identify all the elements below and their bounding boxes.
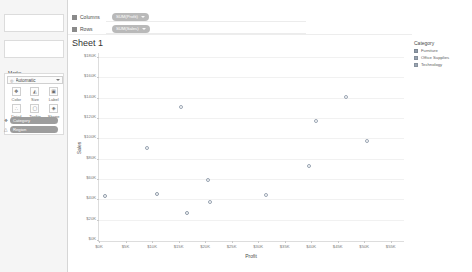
x-tick-mark: [152, 241, 153, 243]
rows-shelf-dropzone[interactable]: SUM(Sales): [106, 24, 306, 34]
x-tick-label: $45K: [333, 244, 343, 249]
mark-type-dropdown[interactable]: ◎ Automatic: [7, 76, 63, 84]
x-tick-label: $20K: [200, 244, 210, 249]
y-tick-mark: [97, 98, 99, 99]
legend-item-label: Furniture: [421, 48, 438, 54]
x-tick-mark: [391, 241, 392, 243]
x-tick-mark: [99, 241, 100, 243]
scatter-point[interactable]: [155, 192, 159, 196]
columns-shelf-dropzone[interactable]: SUM(Profit): [106, 12, 306, 22]
scatter-point[interactable]: [206, 178, 210, 182]
x-tick-mark: [311, 241, 312, 243]
legend-item-furniture[interactable]: Furniture: [414, 48, 468, 54]
legend-item-office-supplies[interactable]: Office Supplies: [414, 55, 468, 61]
x-tick-mark: [232, 241, 233, 243]
y-tick-label: $140K: [84, 93, 96, 98]
legend-swatch-icon: [414, 63, 418, 67]
y-tick-label: $40K: [86, 195, 96, 200]
y-tick-mark: [97, 199, 99, 200]
x-tick-mark: [338, 241, 339, 243]
x-tick-label: $10K: [147, 244, 157, 249]
gridline: [99, 199, 404, 200]
marks-pill-category[interactable]: Category: [10, 117, 58, 124]
chevron-down-icon: [141, 16, 145, 18]
gridline: [99, 138, 404, 139]
marks-pill-category-label: Category: [13, 118, 30, 123]
x-tick-label: $5K: [122, 244, 129, 249]
scatter-point[interactable]: [185, 211, 189, 215]
scatter-point[interactable]: [365, 139, 369, 143]
columns-pill-label: SUM(Profit): [116, 14, 138, 19]
y-tick-label: $100K: [84, 134, 96, 139]
scatter-plot[interactable]: $180K$160K$140K$120K$100K$80K$60K$40K$20…: [98, 53, 404, 242]
gridline: [99, 77, 404, 78]
scatter-point[interactable]: [264, 193, 268, 197]
gridline: [99, 220, 404, 221]
marks-pill-region[interactable]: Region: [10, 126, 58, 133]
color-icon: ❖: [12, 87, 21, 96]
x-tick-mark: [179, 241, 180, 243]
shape-encoding-icon: △: [4, 126, 7, 133]
tableau-worksheet: Pages Filters Marks ◎ Automatic ❖ Color …: [0, 0, 472, 272]
legend-item-technology[interactable]: Technology: [414, 62, 468, 68]
detail-icon: ∴: [12, 104, 21, 113]
marks-type-icon: ◎: [10, 78, 14, 83]
y-tick-mark: [97, 77, 99, 78]
size-icon: ◭: [30, 87, 39, 96]
rows-pill-sum-sales[interactable]: SUM(Sales): [112, 25, 150, 33]
x-tick-mark: [205, 241, 206, 243]
legend-swatch-icon: [414, 56, 418, 60]
x-tick-mark: [285, 241, 286, 243]
y-tick-label: $180K: [84, 53, 96, 58]
scatter-point[interactable]: [314, 119, 318, 123]
marks-color-button[interactable]: ❖ Color: [7, 87, 26, 102]
plot-canvas[interactable]: $180K$160K$140K$120K$100K$80K$60K$40K$20…: [98, 53, 404, 242]
marks-size-button[interactable]: ◭ Size: [26, 87, 45, 102]
legend-swatch-icon: [414, 49, 418, 53]
category-legend: Category Furniture Office Supplies Techn…: [414, 40, 468, 69]
columns-shelf: Columns SUM(Profit): [72, 12, 306, 22]
legend-title: Category: [414, 40, 468, 46]
marks-label-label: Label: [49, 97, 59, 102]
y-tick-mark: [97, 220, 99, 221]
mark-type-value: Automatic: [16, 78, 57, 83]
x-tick-mark: [364, 241, 365, 243]
x-tick-mark: [258, 241, 259, 243]
gridline: [99, 98, 404, 99]
x-tick-label: $50K: [359, 244, 369, 249]
columns-icon: [72, 15, 77, 20]
scatter-point[interactable]: [179, 105, 183, 109]
legend-item-label: Office Supplies: [421, 55, 449, 61]
shelves-area: Columns SUM(Profit) Rows SUM(Sales): [68, 0, 472, 34]
x-tick-label: $15K: [174, 244, 184, 249]
scatter-point[interactable]: [344, 95, 348, 99]
pages-shelf-dropzone[interactable]: [4, 14, 64, 32]
scatter-point[interactable]: [307, 164, 311, 168]
y-axis-label: Sales: [77, 141, 83, 154]
gridline: [99, 118, 404, 119]
scatter-point[interactable]: [103, 194, 107, 198]
rows-icon: [72, 27, 77, 32]
columns-pill-sum-profit[interactable]: SUM(Profit): [112, 13, 149, 21]
marks-pill-region-label: Region: [13, 127, 26, 132]
y-tick-label: $120K: [84, 114, 96, 119]
y-tick-mark: [97, 159, 99, 160]
y-tick-label: $160K: [84, 73, 96, 78]
label-icon: ▣: [49, 87, 58, 96]
filters-shelf-dropzone[interactable]: [4, 40, 64, 58]
marks-label-button[interactable]: ▣ Label: [44, 87, 63, 102]
shape-icon: ◈: [49, 104, 58, 113]
gridline: [99, 159, 404, 160]
scatter-point[interactable]: [145, 146, 149, 150]
y-tick-mark: [97, 118, 99, 119]
worksheet-view: Sheet 1 $180K$160K$140K$120K$100K$80K$60…: [68, 34, 412, 272]
y-tick-mark: [97, 179, 99, 180]
legend-item-label: Technology: [421, 62, 442, 68]
tooltip-icon: ▢: [30, 104, 39, 113]
rows-shelf-label: Rows: [80, 26, 106, 32]
x-tick-mark: [126, 241, 127, 243]
x-tick-label: $0K: [95, 244, 102, 249]
x-tick-label: $35K: [280, 244, 290, 249]
x-tick-label: $55K: [386, 244, 396, 249]
scatter-point[interactable]: [208, 200, 212, 204]
